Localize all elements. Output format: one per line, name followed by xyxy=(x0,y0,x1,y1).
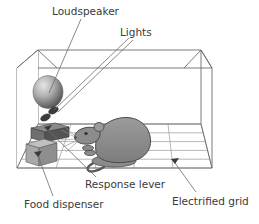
food-dispenser xyxy=(26,139,57,166)
label-food-dispenser: Food dispenser xyxy=(24,198,104,210)
label-lights: Lights xyxy=(120,26,152,38)
label-loudspeaker: Loudspeaker xyxy=(52,5,120,17)
label-response-lever: Response lever xyxy=(85,178,166,190)
loudspeaker-cone xyxy=(33,76,63,109)
figure-root: Loudspeaker Lights Response lever Food d… xyxy=(0,0,259,224)
label-electrified-grid: Electrified grid xyxy=(172,195,249,207)
skinner-box-diagram: Loudspeaker Lights Response lever Food d… xyxy=(0,0,259,224)
